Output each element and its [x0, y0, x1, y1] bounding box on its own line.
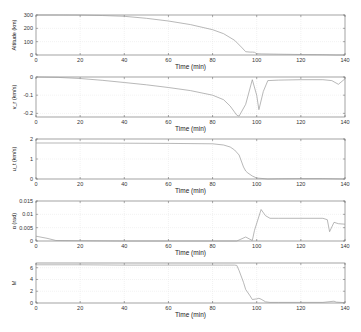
- x-tick-label: 0: [34, 57, 37, 63]
- y-axis-label: Altitude (km): [11, 19, 17, 50]
- x-axis-label: Time (min): [175, 311, 206, 319]
- y-tick-label: -0.2: [24, 110, 33, 116]
- y-tick-label: 0.005: [19, 225, 33, 231]
- x-tick-label: 20: [77, 305, 83, 311]
- x-tick-label: 40: [121, 181, 127, 187]
- figure: 0204060801001201400100200300Time (min)Al…: [0, 0, 361, 332]
- x-tick-label: 140: [340, 243, 349, 249]
- x-tick-label: 100: [252, 119, 261, 125]
- x-axis-label: Time (min): [175, 125, 206, 133]
- x-tick-label: 120: [296, 57, 305, 63]
- y-tick-label: 0: [30, 238, 33, 244]
- y-tick-label: 200: [24, 25, 33, 31]
- x-tick-label: 60: [165, 181, 171, 187]
- x-tick-label: 0: [34, 119, 37, 125]
- y-tick-label: 2: [30, 136, 33, 142]
- y-tick-label: 0.015: [19, 198, 33, 204]
- y-tick-label: 0.01: [22, 211, 33, 217]
- subplot-5: 0204060801001201400246Time (min)M: [11, 263, 350, 319]
- x-tick-label: 40: [121, 243, 127, 249]
- y-tick-label: -0.1: [24, 92, 33, 98]
- x-tick-label: 80: [210, 181, 216, 187]
- subplot-4: 02040608010012014000.0050.010.015Time (m…: [11, 198, 350, 257]
- x-tick-label: 120: [296, 119, 305, 125]
- y-tick-label: 1: [30, 156, 33, 162]
- x-tick-label: 80: [210, 243, 216, 249]
- x-tick-label: 120: [296, 305, 305, 311]
- x-tick-label: 40: [121, 305, 127, 311]
- subplot-3: 020406080100120140012Time (min)u_t (km/s…: [11, 136, 350, 195]
- x-tick-label: 100: [252, 181, 261, 187]
- x-axis-label: Time (min): [175, 249, 206, 257]
- y-tick-label: 100: [24, 39, 33, 45]
- y-tick-label: 0: [30, 176, 33, 182]
- y-axis-label: M: [11, 280, 17, 285]
- x-tick-label: 100: [252, 305, 261, 311]
- y-axis-label: u_t (km/s): [11, 147, 17, 172]
- axes-box: [36, 201, 345, 241]
- axes-box: [36, 15, 345, 55]
- x-tick-label: 0: [34, 305, 37, 311]
- x-tick-label: 20: [77, 57, 83, 63]
- x-tick-label: 60: [165, 119, 171, 125]
- x-tick-label: 40: [121, 119, 127, 125]
- y-tick-label: 4: [30, 276, 33, 282]
- axes-box: [36, 263, 345, 303]
- y-axis-label: α (rad): [11, 213, 17, 229]
- axes-box: [36, 77, 345, 117]
- x-tick-label: 140: [340, 181, 349, 187]
- x-axis-label: Time (min): [175, 187, 206, 195]
- x-tick-label: 60: [165, 305, 171, 311]
- x-tick-label: 100: [252, 57, 261, 63]
- x-tick-label: 100: [252, 243, 261, 249]
- x-tick-label: 0: [34, 243, 37, 249]
- x-tick-label: 140: [340, 119, 349, 125]
- x-tick-label: 120: [296, 181, 305, 187]
- x-tick-label: 80: [210, 119, 216, 125]
- y-tick-label: 0: [30, 52, 33, 58]
- x-tick-label: 0: [34, 181, 37, 187]
- x-tick-label: 20: [77, 119, 83, 125]
- x-tick-label: 20: [77, 181, 83, 187]
- y-tick-label: 6: [30, 265, 33, 271]
- subplot-1: 0204060801001201400100200300Time (min)Al…: [11, 12, 350, 71]
- subplot-2: 020406080100120140-0.2-0.10Time (min)v_r…: [11, 74, 350, 133]
- y-tick-label: 0: [30, 300, 33, 306]
- x-tick-label: 140: [340, 305, 349, 311]
- x-tick-label: 80: [210, 305, 216, 311]
- x-tick-label: 80: [210, 57, 216, 63]
- x-tick-label: 40: [121, 57, 127, 63]
- x-tick-label: 140: [340, 57, 349, 63]
- x-tick-label: 20: [77, 243, 83, 249]
- x-tick-label: 60: [165, 57, 171, 63]
- y-tick-label: 0: [30, 74, 33, 80]
- x-tick-label: 120: [296, 243, 305, 249]
- y-tick-label: 2: [30, 288, 33, 294]
- x-axis-label: Time (min): [175, 63, 206, 71]
- y-tick-label: 300: [24, 12, 33, 18]
- x-tick-label: 60: [165, 243, 171, 249]
- y-axis-label: v_r (km/s): [11, 85, 17, 110]
